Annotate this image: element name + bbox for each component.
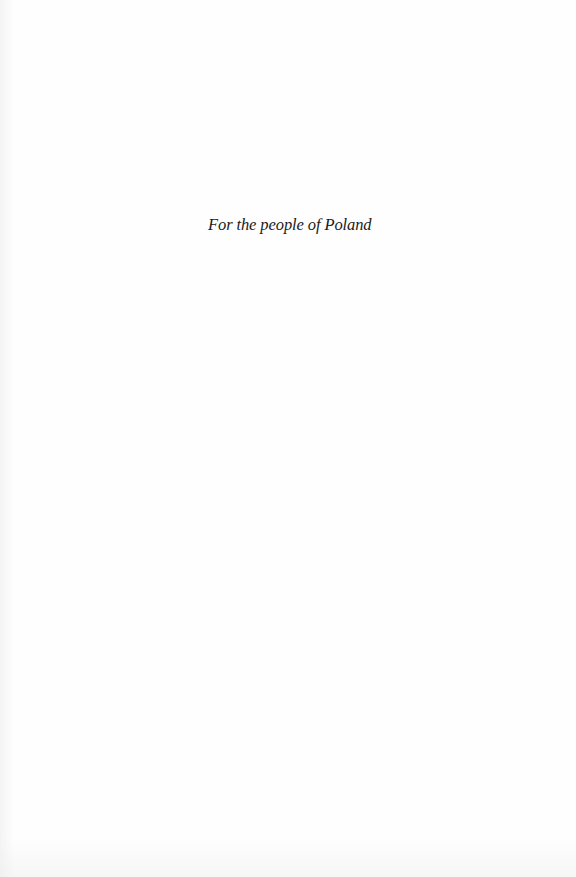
page-edge-shadow-bottom bbox=[0, 837, 576, 877]
page-edge-shadow-left bbox=[0, 0, 14, 877]
dedication-text: For the people of Poland bbox=[208, 214, 348, 236]
book-page: For the people of Poland bbox=[0, 0, 576, 877]
